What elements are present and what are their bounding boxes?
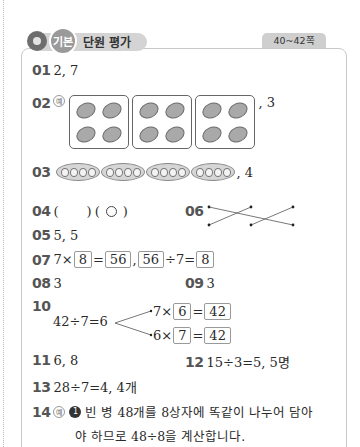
answer-13: 13 28÷7=4, 4개 bbox=[32, 377, 137, 396]
answer-02: 02 예 , 3 bbox=[32, 95, 275, 149]
question-number: 10 bbox=[32, 298, 50, 314]
separator: , bbox=[132, 252, 136, 267]
answer-text: 3 bbox=[206, 276, 214, 291]
matching-lines-diagram bbox=[205, 203, 305, 227]
seed-icon bbox=[163, 99, 187, 121]
answer-box: 56 bbox=[105, 251, 132, 268]
question-number: 13 bbox=[32, 379, 50, 395]
level-badge: 기본 bbox=[49, 27, 77, 55]
answer-14-cont: 야 하므로 48÷8을 계산합니다. bbox=[75, 426, 245, 445]
operand: 7 bbox=[53, 252, 61, 267]
pea-pod-icon bbox=[101, 163, 145, 181]
seed-icon bbox=[100, 123, 124, 145]
seed-icon bbox=[163, 123, 187, 145]
answer-10: 10 bbox=[32, 298, 53, 314]
seed-icon bbox=[226, 123, 250, 145]
branch-equation-1: 7× 6 = 42 bbox=[153, 303, 232, 320]
division-stem: 42÷7=6 bbox=[53, 314, 108, 329]
paren: ) bbox=[87, 204, 92, 219]
answer-text: 2, 7 bbox=[53, 63, 78, 78]
answer-06: 06 bbox=[185, 203, 206, 219]
question-number: 14 bbox=[32, 404, 50, 420]
operator: × bbox=[62, 252, 73, 267]
answer-11: 11 6, 8 bbox=[32, 352, 78, 368]
question-number: 11 bbox=[32, 352, 50, 368]
question-number: 02 bbox=[32, 95, 50, 111]
operator: = bbox=[184, 252, 195, 267]
seed-icon bbox=[74, 99, 98, 121]
answer-03: 03 , 4 bbox=[32, 163, 253, 181]
paren: ) bbox=[123, 204, 128, 219]
branch-equation-2: 6× 7 = 42 bbox=[153, 327, 232, 344]
answer-text: 15÷3=5, 5명 bbox=[206, 352, 289, 371]
seed-icon bbox=[137, 99, 161, 121]
pea-pod-icon bbox=[191, 163, 235, 181]
answer-07: 07 7 × 8 = 56 , 56 ÷ 7 = 8 bbox=[32, 251, 215, 268]
answer-text: 28÷7=4, 4개 bbox=[53, 377, 136, 396]
example-mark: 예 bbox=[53, 406, 65, 418]
answer-14: 14 예 1 빈 병 48개를 8상자에 똑같이 나누어 담아 bbox=[32, 402, 313, 421]
answer-box: 7 bbox=[173, 327, 191, 344]
answer-text: 5, 5 bbox=[53, 228, 78, 243]
bulb-icon bbox=[27, 31, 47, 51]
answer-box: 6 bbox=[173, 303, 191, 320]
question-number: 04 bbox=[32, 203, 50, 219]
paren: ( bbox=[53, 204, 58, 219]
example-mark: 예 bbox=[53, 95, 65, 107]
seed-icon bbox=[100, 99, 124, 121]
section-title: 단원 평가 bbox=[83, 33, 131, 50]
answer-01: 01 2, 7 bbox=[32, 62, 78, 78]
seed-icon bbox=[200, 99, 224, 121]
operator: = bbox=[192, 304, 203, 319]
seed-group bbox=[195, 95, 255, 149]
branch-lines bbox=[113, 305, 153, 345]
seed-group bbox=[132, 95, 192, 149]
operand: 7 bbox=[176, 252, 184, 267]
paren: ( bbox=[95, 204, 100, 219]
seed-icon bbox=[200, 123, 224, 145]
answer-box: 56 bbox=[138, 251, 165, 268]
answer-box: 8 bbox=[74, 251, 92, 268]
answer-text: 6, 8 bbox=[53, 353, 78, 368]
operand: 6× bbox=[153, 328, 172, 343]
answer-04: 04 ( ) ( ) bbox=[32, 203, 128, 219]
answer-suffix: , 4 bbox=[236, 165, 253, 180]
answer-text: 3 bbox=[53, 276, 61, 291]
answer-05: 05 5, 5 bbox=[32, 227, 78, 243]
seed-icon bbox=[226, 99, 250, 121]
operator: = bbox=[93, 252, 104, 267]
pea-pod-icon bbox=[56, 163, 100, 181]
explanation-line-2: 야 하므로 48÷8을 계산합니다. bbox=[75, 426, 245, 445]
seed-icon bbox=[137, 123, 161, 145]
answer-08: 08 3 bbox=[32, 275, 62, 291]
operator: = bbox=[192, 328, 203, 343]
answer-box: 42 bbox=[204, 327, 231, 344]
question-number: 12 bbox=[185, 354, 203, 370]
seed-group bbox=[69, 95, 129, 149]
question-number: 09 bbox=[185, 275, 203, 291]
question-number: 07 bbox=[32, 252, 50, 268]
answer-suffix: , 3 bbox=[258, 95, 275, 110]
answer-09: 09 3 bbox=[185, 275, 215, 291]
page-range-tab: 40~42쪽 bbox=[262, 33, 326, 49]
division-equation: 42÷7=6 bbox=[53, 314, 108, 329]
answer-box: 42 bbox=[204, 303, 231, 320]
seed-icon bbox=[74, 123, 98, 145]
operator: ÷ bbox=[165, 252, 176, 267]
operand: 7× bbox=[153, 304, 172, 319]
pea-pod-icon bbox=[146, 163, 190, 181]
question-number: 03 bbox=[32, 164, 50, 180]
section-header: 기본 단원 평가 bbox=[27, 30, 131, 52]
answer-box: 8 bbox=[196, 251, 214, 268]
question-number: 06 bbox=[185, 203, 203, 219]
question-number: 05 bbox=[32, 227, 50, 243]
explanation-line-1: 빈 병 48개를 8상자에 똑같이 나누어 담아 bbox=[85, 402, 313, 421]
margin-dotted-line bbox=[3, 0, 4, 447]
answer-12: 12 15÷3=5, 5명 bbox=[185, 352, 290, 371]
question-number: 08 bbox=[32, 275, 50, 291]
circle-mark-icon bbox=[106, 206, 117, 217]
step-number-badge: 1 bbox=[69, 406, 81, 418]
question-number: 01 bbox=[32, 62, 50, 78]
